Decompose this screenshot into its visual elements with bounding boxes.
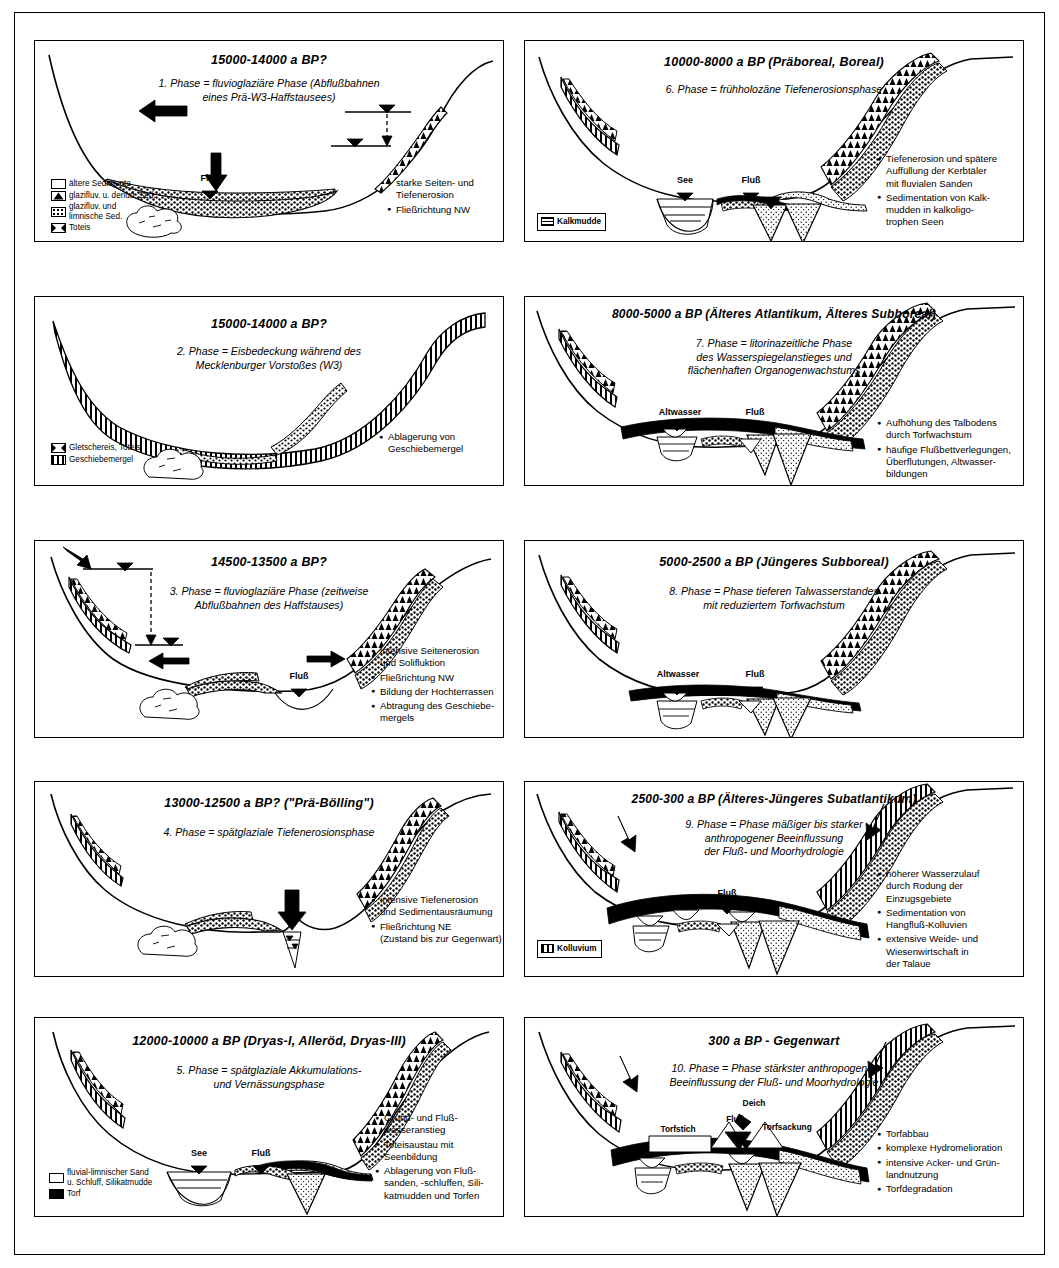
panel-9-title: 2500-300 a BP (Älteres-Jüngeres Subatlan…: [525, 792, 1023, 806]
panel-6-title: 10000-8000 a BP (Präboreal, Boreal): [525, 55, 1023, 69]
bullet: intensive Acker- und Grün- landnutzung: [877, 1157, 1023, 1182]
bullet: Ablagerung von Fluß- sanden, -schluffen,…: [375, 1165, 503, 1202]
panel-6-legend: Kalkmudde: [537, 213, 606, 231]
panel-7-bullets: Aufhöhung des Talbodens durch Torfwachst…: [877, 417, 1023, 482]
panel-4-subtitle: 4. Phase = spätglaziale Tiefenerosionsph…: [35, 826, 503, 840]
swatch-blank: [51, 179, 66, 189]
panel-2: 15000-14000 a BP? 2. Phase = Eisbedeckun…: [34, 296, 504, 486]
panel-8-subtitle: 8. Phase = Phase tieferen Talwasserstand…: [525, 585, 1023, 612]
legend-label: Gletschereis, Toteis: [69, 443, 140, 453]
legend-label: glazifluv. und limnische Sed.: [69, 202, 122, 221]
panel-10-title: 300 a BP - Gegenwart: [525, 1034, 1023, 1048]
legend-label: Torf: [67, 1189, 81, 1199]
bullet: höherer Wasserzulauf durch Rodung der Ei…: [877, 868, 1021, 905]
panel-4-cross-section: [35, 782, 504, 977]
bullet: häufige Flußbettverlegungen, Überflutung…: [877, 444, 1023, 481]
bullet: extensive Weide- und Wiesenwirtschaft in…: [877, 933, 1021, 970]
legend-row: Kalkmudde: [541, 217, 601, 227]
swatch-solid: [49, 1189, 64, 1199]
bullet: Ablagerung von Geschiebemergel: [379, 431, 497, 456]
panel-10-water-label-fluss: Fluß: [717, 1114, 753, 1124]
panel-2-subtitle: 2. Phase = Eisbedeckung während des Meck…: [35, 345, 503, 372]
panel-3: 14500-13500 a BP? 3. Phase = fluvioglazi…: [34, 540, 504, 738]
panel-8-water-label-altwasser: Altwasser: [649, 669, 707, 679]
legend-row: Geschiebemergel: [51, 455, 140, 465]
panel-3-title: 14500-13500 a BP?: [35, 555, 503, 569]
legend-row: ältere Sedimente: [51, 179, 156, 189]
panel-3-subtitle: 3. Phase = fluvioglaziäre Phase (zeitwei…: [35, 585, 503, 612]
panel-5-bullets: Grund- und Fluß- wasseranstieg Toteisaus…: [375, 1112, 503, 1204]
bullet: Fließrichtung NW: [371, 672, 503, 684]
bullet: komplexe Hydromelioration: [877, 1142, 1023, 1154]
panel-8: 5000-2500 a BP (Jüngeres Subboreal) 8. P…: [524, 540, 1024, 738]
legend-label: Geschiebemergel: [69, 455, 133, 465]
panel-7-title: 8000-5000 a BP (Älteres Atlantikum, Älte…: [525, 307, 1023, 321]
bullet: Torfabbau: [877, 1128, 1023, 1140]
panel-10-subtitle: 10. Phase = Phase stärkster anthropogene…: [525, 1062, 1023, 1089]
legend-row: glazifluv. u. denud. Sed.: [51, 191, 156, 201]
bullet: Sedimentation von Kalk- mudden in kalkol…: [877, 192, 1019, 229]
bullet: intensive Seitenerosion und Solifluktion: [371, 645, 503, 670]
figure-page: 15000-14000 a BP? 1. Phase = fluvioglazi…: [0, 0, 1059, 1268]
panel-3-water-label-fluss: Fluß: [276, 671, 322, 681]
panel-5-water-label-see: See: [177, 1148, 221, 1158]
panel-10-water-label-torfsackung: Torfsackung: [751, 1122, 823, 1132]
panel-6-water-label-fluss: Fluß: [729, 175, 773, 185]
panel-5-water-label-fluss: Fluß: [239, 1148, 283, 1158]
panel-4-title: 13000-12500 a BP? ("Prä-Bölling"): [35, 796, 503, 810]
panel-1-water-label-fluss: Fluß: [187, 173, 233, 183]
panel-9-bullets: höherer Wasserzulauf durch Rodung der Ei…: [877, 868, 1021, 972]
bullet: Abtragung des Geschiebe- mergels: [371, 700, 503, 725]
panel-6-water-label-see: See: [663, 175, 707, 185]
legend-row: glazifluv. und limnische Sed.: [51, 202, 156, 221]
panel-1-bullets: starke Seiten- und Tiefenerosion Fließri…: [387, 177, 499, 218]
swatch-deadice: [51, 223, 66, 233]
legend-row: Kolluvium: [541, 944, 597, 954]
legend-label: Kalkmudde: [557, 217, 601, 227]
swatch-triangles: [51, 191, 66, 201]
panel-7-water-label-fluss: Fluß: [733, 407, 777, 417]
bullet: Sedimentation von Hangfluß-Kolluvien: [877, 907, 1021, 932]
panel-1-title: 15000-14000 a BP?: [35, 53, 503, 67]
bullet: Toteisaustau mit Seenbildung: [375, 1139, 503, 1164]
panel-10: 300 a BP - Gegenwart 10. Phase = Phase s…: [524, 1017, 1024, 1217]
panel-8-water-label-fluss: Fluß: [733, 669, 777, 679]
panel-6: 10000-8000 a BP (Präboreal, Boreal) 6. P…: [524, 40, 1024, 242]
bullet: Tiefenerosion und spätere Auffüllung der…: [877, 153, 1019, 190]
panel-grid: 15000-14000 a BP? 1. Phase = fluvioglazi…: [26, 28, 1033, 1240]
legend-label: Kolluvium: [557, 944, 597, 954]
panel-9-legend: Kolluvium: [537, 940, 602, 958]
legend-label: glazifluv. u. denud. Sed.: [69, 191, 156, 201]
panel-2-title: 15000-14000 a BP?: [35, 317, 503, 331]
panel-4-bullets: intensive Tiefenerosion und Sedimentausr…: [371, 894, 504, 947]
bullet: intensive Tiefenerosion und Sedimentausr…: [371, 894, 504, 919]
panel-9-water-label-fluss: Fluß: [705, 888, 749, 898]
bullet: Fließrichtung NE (Zustand bis zur Gegenw…: [371, 921, 504, 946]
panel-7-water-label-altwasser: Altwasser: [651, 407, 709, 417]
swatch-vbars: [51, 455, 66, 465]
panel-8-title: 5000-2500 a BP (Jüngeres Subboreal): [525, 555, 1023, 569]
swatch-hlines: [541, 217, 554, 226]
bullet: Fließrichtung NW: [387, 204, 499, 216]
legend-row: Gletschereis, Toteis: [51, 443, 140, 453]
panel-7: 8000-5000 a BP (Älteres Atlantikum, Älte…: [524, 296, 1024, 486]
panel-7-subtitle: 7. Phase = litorinazeitliche Phase des W…: [525, 337, 1023, 378]
swatch-vbars: [541, 944, 554, 953]
panel-1-subtitle: 1. Phase = fluvioglaziäre Phase (Abflußb…: [35, 77, 503, 104]
swatch-blank: [49, 1173, 64, 1183]
panel-6-subtitle: 6. Phase = frühholozäne Tiefenerosionsph…: [525, 83, 1023, 97]
panel-5-title: 12000-10000 a BP (Dryas-I, Alleröd, Drya…: [35, 1034, 503, 1048]
swatch-dots: [51, 207, 66, 217]
bullet: Torfdegradation: [877, 1183, 1023, 1195]
panel-3-bullets: intensive Seitenerosion und Solifluktion…: [371, 645, 503, 727]
legend-label: fluvial-limnischer Sand u. Schluff, Sili…: [67, 1168, 152, 1187]
panel-10-water-label-torfstich: Torfstich: [647, 1124, 709, 1134]
legend-row: fluvial-limnischer Sand u. Schluff, Sili…: [49, 1168, 152, 1187]
bullet: Bildung der Hochterrassen: [371, 686, 503, 698]
legend-label: Toteis: [69, 223, 90, 233]
bullet: starke Seiten- und Tiefenerosion: [387, 177, 499, 202]
legend-label: ältere Sedimente: [69, 179, 131, 189]
panel-10-water-label-deich: Deich: [731, 1098, 777, 1108]
panel-1: 15000-14000 a BP? 1. Phase = fluvioglazi…: [34, 40, 504, 242]
panel-1-legend: ältere Sedimente glazifluv. u. denud. Se…: [51, 179, 156, 234]
